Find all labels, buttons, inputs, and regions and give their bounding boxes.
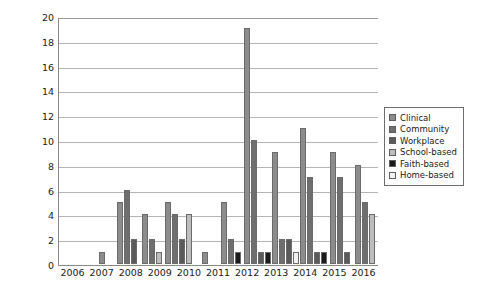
- legend-swatch-icon: [389, 114, 396, 121]
- bar: [286, 239, 292, 264]
- bar: [186, 214, 192, 264]
- bar: [149, 239, 155, 264]
- bar: [330, 152, 336, 264]
- legend-label: Faith-based: [400, 160, 449, 169]
- bar: [355, 165, 361, 264]
- bar: [172, 214, 178, 264]
- bar: [179, 239, 185, 264]
- bar: [293, 252, 299, 264]
- y-tick-label: 12: [42, 112, 58, 122]
- bar: [369, 214, 375, 264]
- bar: [279, 239, 285, 264]
- plot-area: 02468101214161820 2006200720082009201020…: [28, 18, 378, 266]
- x-tick-label: 2010: [174, 268, 203, 278]
- legend-item[interactable]: Faith-based: [389, 158, 457, 170]
- bar-group: [165, 18, 193, 264]
- legend-swatch-icon: [389, 137, 396, 144]
- legend-item[interactable]: Clinical: [389, 112, 457, 124]
- x-tick-label: 2012: [233, 268, 262, 278]
- bar: [156, 252, 162, 264]
- x-tick-label: 2008: [116, 268, 145, 278]
- bar: [314, 252, 320, 264]
- x-tick-label: 2011: [203, 268, 232, 278]
- bar: [124, 190, 130, 264]
- legend-label: Community: [400, 125, 449, 134]
- y-tick-label: 6: [48, 187, 58, 197]
- x-tick-label: 2007: [87, 268, 116, 278]
- y-tick-label: 10: [42, 137, 58, 147]
- bar: [131, 239, 137, 264]
- bar: [321, 252, 327, 264]
- x-tick-label: 2015: [320, 268, 349, 278]
- y-tick-label: 4: [48, 212, 58, 222]
- legend-item[interactable]: Home-based: [389, 170, 457, 182]
- y-tick-label: 16: [42, 63, 58, 73]
- y-tick-label: 8: [48, 162, 58, 172]
- bar: [258, 252, 264, 264]
- bar-group: [327, 18, 352, 264]
- y-tick-label: 0: [48, 261, 58, 271]
- y-tick-label: 14: [42, 88, 58, 98]
- x-tick-label: 2014: [291, 268, 320, 278]
- chart-legend: ClinicalCommunityWorkplaceSchool-basedFa…: [384, 107, 464, 186]
- bar-group: [353, 18, 378, 264]
- bar-group: [114, 18, 139, 264]
- bar-group: [271, 18, 299, 264]
- bar: [228, 239, 234, 264]
- legend-item[interactable]: School-based: [389, 147, 457, 159]
- legend-swatch-icon: [389, 160, 396, 167]
- bar: [117, 202, 123, 264]
- bar: [362, 202, 368, 264]
- bar-group: [218, 18, 243, 264]
- legend-item[interactable]: Community: [389, 124, 457, 136]
- plot-box: [58, 18, 378, 266]
- bar: [307, 177, 313, 264]
- bar-groups: [89, 18, 378, 264]
- bar: [165, 202, 171, 264]
- y-tick-label: 20: [42, 13, 58, 23]
- x-axis-labels: 2006200720082009201020112012201320142015…: [58, 268, 378, 278]
- y-tick-label: 2: [48, 236, 58, 246]
- bar: [244, 28, 250, 264]
- bar: [235, 252, 241, 264]
- legend-label: School-based: [400, 148, 457, 157]
- bar: [337, 177, 343, 264]
- legend-swatch-icon: [389, 149, 396, 156]
- x-tick-label: 2009: [145, 268, 174, 278]
- bar: [142, 214, 148, 264]
- legend-label: Home-based: [400, 171, 454, 180]
- x-tick-label: 2013: [262, 268, 291, 278]
- chart-figure: 02468101214161820 2006200720082009201020…: [0, 0, 478, 297]
- bar: [300, 128, 306, 264]
- axis-area: 02468101214161820 2006200720082009201020…: [28, 18, 378, 266]
- bar: [202, 252, 208, 264]
- bar-group: [193, 18, 218, 264]
- bar-group: [299, 18, 327, 264]
- legend-item[interactable]: Workplace: [389, 135, 457, 147]
- bar-group: [89, 18, 114, 264]
- bar: [344, 252, 350, 264]
- legend-swatch-icon: [389, 172, 396, 179]
- bar: [265, 252, 271, 264]
- y-tick-label: 18: [42, 38, 58, 48]
- legend-label: Clinical: [400, 114, 431, 123]
- legend-swatch-icon: [389, 126, 396, 133]
- bar-group: [243, 18, 271, 264]
- x-tick-label: 2006: [58, 268, 87, 278]
- bar-group: [140, 18, 165, 264]
- bar: [99, 252, 105, 264]
- legend-label: Workplace: [400, 137, 444, 146]
- bar: [251, 140, 257, 264]
- bar: [272, 152, 278, 264]
- x-tick-label: 2016: [349, 268, 378, 278]
- bar: [221, 202, 227, 264]
